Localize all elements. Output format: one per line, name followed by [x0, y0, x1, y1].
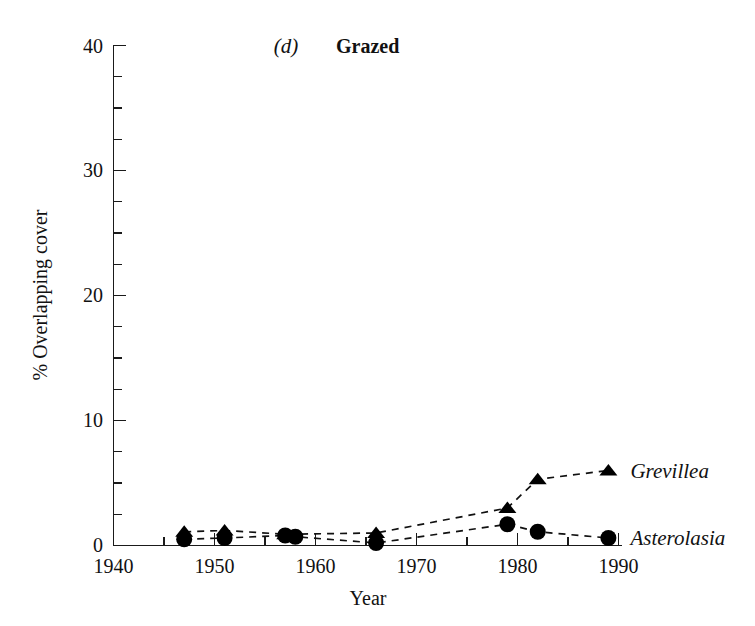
- series-markers-grevillea: [175, 464, 617, 539]
- xtick-label-1970: 1970: [397, 555, 437, 577]
- series-line-grevillea: [184, 471, 608, 535]
- ytick-label-30: 30: [83, 159, 103, 181]
- axis-frame: [114, 45, 623, 546]
- data-point-asterolasia: [600, 530, 616, 546]
- figure-panel: (d) Grazed 0 10: [0, 0, 755, 626]
- xtick-label-1940: 1940: [94, 555, 134, 577]
- data-point-asterolasia: [530, 524, 546, 540]
- ytick-label-20: 20: [83, 284, 103, 306]
- data-point-asterolasia: [217, 530, 233, 546]
- ytick-label-40: 40: [83, 35, 103, 57]
- data-point-asterolasia: [368, 535, 384, 551]
- data-point-grevillea: [529, 473, 547, 484]
- ytick-label-0: 0: [93, 534, 103, 556]
- panel-letter: (d): [274, 34, 299, 58]
- data-point-grevillea: [599, 464, 617, 475]
- series-label-grevillea: Grevillea: [630, 459, 709, 483]
- xtick-label-1980: 1980: [498, 555, 538, 577]
- series-label-asterolasia: Asterolasia: [628, 526, 725, 550]
- ytick-label-10: 10: [83, 409, 103, 431]
- xtick-label-1950: 1950: [195, 555, 235, 577]
- chart-canvas: (d) Grazed 0 10: [0, 0, 755, 626]
- xtick-label-1960: 1960: [296, 555, 336, 577]
- xtick-label-1990: 1990: [599, 555, 639, 577]
- y-axis-major-ticks: [114, 46, 127, 546]
- data-point-grevillea: [498, 502, 516, 513]
- panel-title: Grazed: [336, 35, 399, 57]
- data-point-asterolasia: [287, 529, 303, 545]
- data-point-asterolasia: [499, 516, 515, 532]
- data-point-asterolasia: [176, 531, 192, 547]
- x-axis-title: Year: [350, 587, 387, 609]
- y-axis-title: % Overlapping cover: [29, 209, 52, 380]
